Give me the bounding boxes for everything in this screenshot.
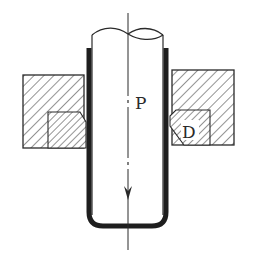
die-label: D xyxy=(182,122,196,142)
diagram-canvas: D P xyxy=(0,0,253,275)
die-right: D xyxy=(170,70,234,145)
deep-drawing-diagram: D P xyxy=(0,0,253,275)
punch-label: P xyxy=(135,93,146,113)
die-left-insert xyxy=(48,112,86,148)
die-left xyxy=(23,75,86,148)
